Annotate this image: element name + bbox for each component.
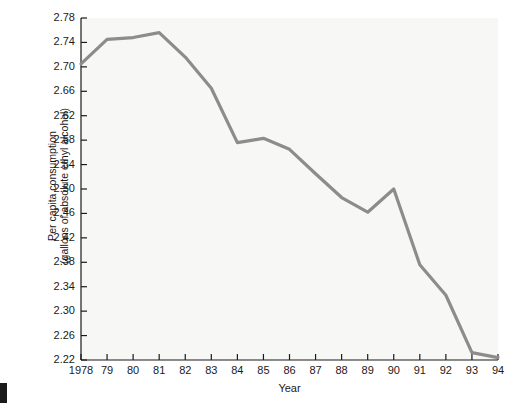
y-axis-title-line-2: (gallons of absolute ethyl alcohol) (58, 46, 70, 326)
x-tick-label: 81 (153, 365, 165, 376)
x-axis-title: Year (81, 382, 498, 394)
y-axis-title: Per capita consumption (gallons of absol… (46, 46, 70, 326)
x-tick-label: 83 (205, 365, 217, 376)
x-tick-label: 84 (231, 365, 243, 376)
x-tick-label: 90 (388, 365, 400, 376)
x-tick-label: 1978 (69, 365, 93, 376)
x-tick-label: 85 (257, 365, 269, 376)
y-tick-label: 2.78 (37, 12, 75, 23)
x-tick-label: 91 (414, 365, 426, 376)
axis-lines (81, 18, 498, 360)
x-tick-label: 86 (283, 365, 295, 376)
chart-svg (0, 0, 509, 407)
x-tick-label: 92 (440, 365, 452, 376)
x-tick-label: 82 (179, 365, 191, 376)
page-corner-mark (0, 383, 7, 403)
x-axis-ticks (81, 354, 498, 360)
y-axis-ticks (81, 18, 87, 360)
y-tick-label: 2.26 (37, 330, 75, 341)
x-tick-label: 94 (492, 365, 504, 376)
x-tick-label: 93 (466, 365, 478, 376)
chart-container: 2.782.742.702.662.622.582.542.502.462.42… (0, 0, 509, 407)
data-series-line (81, 33, 498, 358)
x-tick-label: 88 (336, 365, 348, 376)
y-axis-title-line-1: Per capita consumption (46, 131, 58, 241)
x-tick-label: 89 (362, 365, 374, 376)
x-tick-label: 87 (309, 365, 321, 376)
x-tick-label: 80 (127, 365, 139, 376)
x-tick-label: 79 (101, 365, 113, 376)
